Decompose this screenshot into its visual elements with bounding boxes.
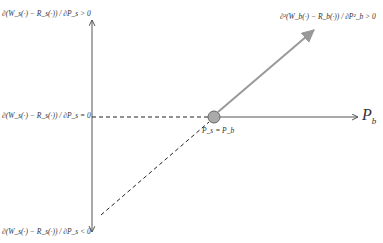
dashed-diagonal-line <box>101 122 209 215</box>
label-mid-left: ∂(W_s(·) − R_s(·)) / ∂P_s = 0 <box>2 111 91 120</box>
x-axis-label: Pb <box>362 106 376 126</box>
x-axis-label-main: P <box>362 106 372 123</box>
intersection-node <box>208 111 220 123</box>
label-top-left: ∂(W_s(·) − R_s(·)) / ∂P_s > 0 <box>2 9 91 18</box>
gray-diagonal-arrow <box>218 30 314 112</box>
label-top-right: ∂²(W_b(·) − R_b(·)) / ∂P²_b > 0 <box>280 12 376 21</box>
label-bottom-left: ∂(W_s(·) − R_s(·)) / ∂P_s < 0 <box>2 227 91 236</box>
label-intersection: P_s = P_b <box>202 126 234 135</box>
x-axis-label-sub: b <box>372 116 377 126</box>
diagram-canvas: ∂(W_s(·) − R_s(·)) / ∂P_s > 0 ∂(W_s(·) −… <box>0 0 383 243</box>
diagram-svg <box>0 0 383 243</box>
